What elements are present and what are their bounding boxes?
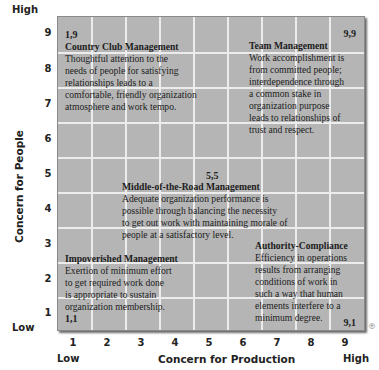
- impoverished-coord: 1,1: [65, 313, 178, 325]
- authority-compliance-block: Authority-Compliance Efficiency in opera…: [255, 240, 348, 324]
- country-club-title: Country Club Management: [65, 41, 197, 53]
- authority-compliance-line: conditions of work in: [255, 276, 348, 288]
- team-block: Team Management Work accomplishment is f…: [249, 40, 344, 136]
- team-line: organization purpose: [249, 100, 344, 112]
- authority-compliance-line: results from arranging: [255, 264, 348, 276]
- country-club-line: needs of people for satisfying: [65, 65, 197, 77]
- authority-compliance-line: such a way that human: [255, 288, 348, 300]
- impoverished-title: Impoverished Management: [65, 253, 178, 265]
- middle-road-coord: 5,5: [206, 170, 219, 181]
- team-line: leads to relationships of: [249, 112, 344, 124]
- x-axis-title: Concern for Production: [158, 353, 295, 365]
- middle-road-title: Middle-of-the-Road Management: [122, 181, 287, 193]
- team-title: Team Management: [249, 40, 344, 52]
- country-club-block: 1,9 Country Club Management Thoughtful a…: [65, 29, 197, 113]
- x-tick-1: 1: [67, 337, 79, 348]
- x-tick-2: 2: [101, 337, 113, 348]
- x-tick-8: 8: [305, 337, 317, 348]
- team-coord: 9,9: [344, 28, 357, 39]
- y-tick-2: 2: [42, 273, 54, 284]
- y-axis-low-label: Low: [12, 322, 34, 333]
- country-club-coord: 1,9: [65, 29, 197, 41]
- x-tick-9: 9: [339, 337, 351, 348]
- impoverished-block: Impoverished Management Exertion of mini…: [65, 253, 178, 325]
- y-tick-9: 9: [42, 27, 54, 38]
- authority-compliance-line: elements interfere to a: [255, 300, 348, 312]
- y-axis-title: Concern for People: [13, 139, 25, 243]
- country-club-line: comfortable, friendly organization: [65, 89, 197, 101]
- y-tick-1: 1: [42, 307, 54, 318]
- x-tick-5: 5: [203, 337, 215, 348]
- x-axis-high-label: High: [343, 353, 369, 364]
- x-axis-low-label: Low: [57, 353, 79, 364]
- impoverished-line: organization membership.: [65, 301, 178, 313]
- impoverished-line: is appropriate to sustain: [65, 289, 178, 301]
- y-tick-5: 5: [42, 168, 54, 179]
- x-tick-7: 7: [271, 337, 283, 348]
- authority-compliance-line: Efficiency in operations: [255, 252, 348, 264]
- middle-road-line: possible through balancing the necessity: [122, 205, 287, 217]
- authority-compliance-title: Authority-Compliance: [255, 240, 348, 252]
- team-line: from committed people;: [249, 64, 344, 76]
- x-tick-6: 6: [237, 337, 249, 348]
- y-tick-6: 6: [42, 133, 54, 144]
- y-tick-4: 4: [42, 203, 54, 214]
- registered-mark: ®: [368, 322, 376, 331]
- gridline-horizontal: [58, 157, 364, 159]
- authority-compliance-coord: 9,1: [344, 317, 357, 328]
- managerial-grid: 1,9 Country Club Management Thoughtful a…: [57, 16, 365, 331]
- authority-compliance-line: minimum degree.: [255, 312, 348, 324]
- team-line: Work accomplishment is: [249, 52, 344, 64]
- team-line: a common stake in: [249, 88, 344, 100]
- impoverished-line: to get required work done: [65, 277, 178, 289]
- y-tick-7: 7: [42, 98, 54, 109]
- middle-road-block: Middle-of-the-Road Management Adequate o…: [122, 181, 287, 241]
- country-club-line: relationships leads to a: [65, 77, 197, 89]
- x-tick-4: 4: [169, 337, 181, 348]
- country-club-line: Thoughtful attention to the: [65, 53, 197, 65]
- team-line: trust and respect.: [249, 124, 344, 136]
- y-tick-3: 3: [42, 238, 54, 249]
- y-tick-8: 8: [42, 63, 54, 74]
- middle-road-line: Adequate organization performance is: [122, 193, 287, 205]
- middle-road-line: to get out work with maintaining morale …: [122, 217, 287, 229]
- country-club-line: atmosphere and work tempo.: [65, 101, 197, 113]
- gridline-vertical: [227, 17, 229, 330]
- x-tick-3: 3: [135, 337, 147, 348]
- y-axis-high-label: High: [12, 4, 38, 15]
- team-line: interdependence through: [249, 76, 344, 88]
- impoverished-line: Exertion of minimum effort: [65, 265, 178, 277]
